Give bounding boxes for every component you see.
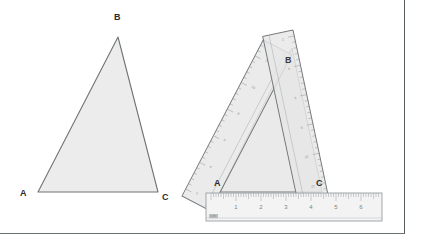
left-vertex-label-c: C (162, 193, 169, 202)
right-construction-group: 2 4 6 8 10 12 (182, 30, 382, 221)
page-frame-right-rule (404, 0, 405, 234)
left-vertex-label-b: B (114, 13, 121, 22)
right-vertex-label-c: C (316, 179, 323, 188)
base-ruler-unit-label: cm (211, 214, 216, 218)
base-ruler-body (206, 193, 382, 221)
right-vertex-label-a: A (214, 179, 221, 188)
right-vertex-label-b: B (285, 56, 292, 65)
horizontal-ruler[interactable]: 1 2 3 4 5 6 cm (206, 193, 382, 221)
figure-canvas: 2 4 6 8 10 12 (0, 0, 425, 242)
left-triangle-group (38, 37, 158, 192)
page-frame-bottom-rule (0, 233, 405, 234)
triangle-abc-plain (38, 37, 158, 192)
left-vertex-label-a: A (20, 189, 27, 198)
geometry-illustration: 2 4 6 8 10 12 (0, 0, 425, 242)
